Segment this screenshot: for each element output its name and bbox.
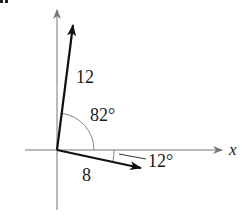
vector-8-magnitude-label: 8 xyxy=(82,165,91,185)
vector-12-magnitude-label: 12 xyxy=(76,67,94,87)
angle-leader-line xyxy=(119,154,146,159)
vector-diagram: 12 82° 8 12° x xyxy=(0,0,243,219)
vector-12 xyxy=(57,25,73,150)
angle-arc-12 xyxy=(113,150,114,162)
angle-82-label: 82° xyxy=(90,105,115,125)
corner-mark xyxy=(0,0,8,3)
vector-8 xyxy=(57,150,141,168)
x-axis-label: x xyxy=(228,140,237,159)
angle-12-label: 12° xyxy=(148,151,173,171)
